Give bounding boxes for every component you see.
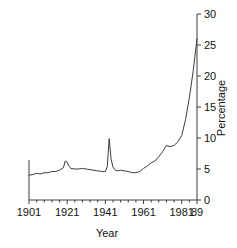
y-axis-ticks <box>197 14 201 200</box>
y-axis-label: Percentage <box>215 80 227 136</box>
y-tick-label: 30 <box>204 8 216 20</box>
y-tick-label: 25 <box>204 39 216 51</box>
x-axis-label: Year <box>96 227 119 239</box>
data-series-line <box>29 39 197 175</box>
x-tick-label: 1941 <box>93 206 117 218</box>
x-axis-tick-labels: 1901192119411961198189 <box>17 206 203 218</box>
chart-axes <box>29 14 197 200</box>
line-chart-svg: 1901192119411961198189 051015202530 Year… <box>0 0 237 248</box>
x-tick-label: 89 <box>191 206 203 218</box>
x-tick-label: 1961 <box>131 206 155 218</box>
y-tick-label: 0 <box>204 194 210 206</box>
x-tick-label: 1921 <box>55 206 79 218</box>
x-tick-label: 1901 <box>17 206 41 218</box>
chart-figure: 1901192119411961198189 051015202530 Year… <box>0 0 237 248</box>
x-axis-minor-ticks <box>37 200 190 203</box>
y-tick-label: 5 <box>204 163 210 175</box>
